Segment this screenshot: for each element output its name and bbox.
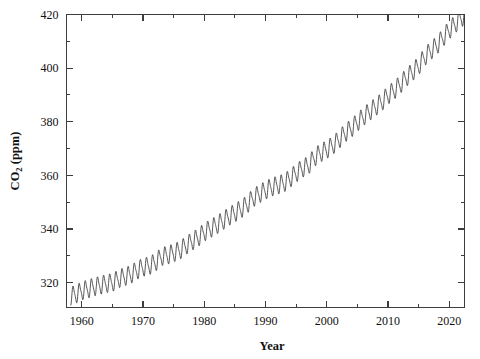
x-tick-label: 1980: [192, 314, 216, 328]
y-tick-label: 420: [41, 8, 59, 22]
x-tick-label: 1960: [70, 314, 94, 328]
x-axis-title: Year: [260, 339, 285, 353]
x-tick-label: 2020: [437, 314, 461, 328]
y-axis-title-base: CO: [8, 171, 22, 190]
x-tick-label: 2010: [376, 314, 400, 328]
x-tick-label: 1970: [131, 314, 155, 328]
y-tick-label: 340: [41, 222, 59, 236]
chart-figure: 1960197019801990200020102020 32034036038…: [0, 0, 480, 359]
y-axis-title: CO2 (ppm): [8, 132, 24, 191]
chart-background: [0, 0, 480, 359]
y-tick-label: 380: [41, 115, 59, 129]
x-tick-label: 2000: [315, 314, 339, 328]
y-tick-label: 400: [41, 61, 59, 75]
y-axis-title-unit: (ppm): [8, 132, 22, 168]
co2-concentration-line-chart: 1960197019801990200020102020 32034036038…: [0, 0, 480, 359]
svg-text:CO2 (ppm): CO2 (ppm): [8, 132, 24, 191]
y-tick-label: 320: [41, 276, 59, 290]
x-tick-label: 1990: [254, 314, 278, 328]
y-tick-label: 360: [41, 169, 59, 183]
